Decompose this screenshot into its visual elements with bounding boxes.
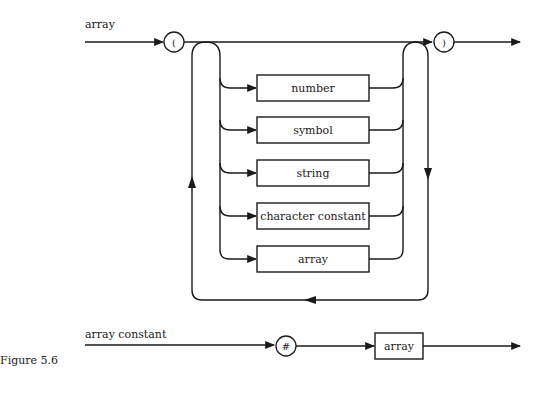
alt-box-symbol: symbol — [257, 117, 369, 143]
figure-caption: Figure 5.6 — [0, 354, 58, 367]
branch-number-in — [220, 78, 256, 88]
syntax-diagram-canvas: array ( ) — [0, 0, 543, 393]
close-paren-symbol: ) — [442, 37, 446, 48]
array-constant-diagram: array constant Figure 5.6 # array — [0, 328, 520, 367]
inner-right-rail — [369, 42, 417, 259]
alt-box-number: number — [257, 75, 369, 101]
array-rule-label: array — [85, 18, 116, 31]
branch-charconst-in — [220, 206, 256, 216]
ac-array-box: array — [375, 333, 423, 359]
open-paren-node: ( — [164, 32, 184, 52]
alt-label: number — [291, 82, 335, 95]
hash-node: # — [276, 336, 296, 356]
open-paren-symbol: ( — [172, 37, 176, 48]
branch-number-out — [369, 78, 403, 88]
alt-box-character-constant: character constant — [257, 203, 369, 229]
loop-down-arrow-icon — [424, 168, 432, 180]
branch-string-out — [369, 163, 403, 173]
branch-symbol-out — [369, 120, 403, 130]
branch-string-in — [220, 163, 256, 173]
hash-symbol: # — [282, 341, 290, 352]
inner-left-rail — [206, 42, 256, 259]
close-paren-node: ) — [434, 32, 454, 52]
alt-label: string — [297, 167, 330, 180]
loop-up-arrow-icon — [188, 176, 196, 188]
alt-label: character constant — [260, 210, 366, 223]
loop-back-arrow-icon — [304, 296, 316, 304]
ac-array-label: array — [384, 340, 415, 353]
alt-label: array — [298, 253, 329, 266]
alt-label: symbol — [293, 124, 333, 137]
branch-symbol-in — [220, 120, 256, 130]
branch-charconst-out — [369, 206, 403, 216]
alt-box-array: array — [257, 246, 369, 272]
array-constant-rule-label: array constant — [85, 328, 167, 341]
alt-box-string: string — [257, 160, 369, 186]
array-diagram: array ( ) — [85, 18, 520, 304]
